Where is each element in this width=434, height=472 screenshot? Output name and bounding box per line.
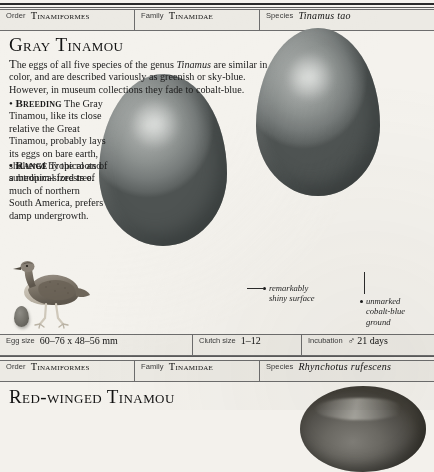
taxonomy-species-cell-2: Species Rhynchotus rufescens <box>260 361 434 381</box>
range-paragraph: • Range Tropical and subtropical forests… <box>9 159 105 222</box>
record-separator-rule <box>0 356 434 357</box>
range-bullet: • <box>9 159 13 171</box>
page-top-rule-hairline <box>0 7 434 8</box>
taxonomy-bar-red-winged-tinamou: Order Tinamiformes Family Tinamidae Spec… <box>0 360 434 382</box>
male-symbol-icon: ♂ <box>348 335 356 346</box>
species-label-2: Species <box>266 362 293 371</box>
clutch-size-cell: Clutch size 1–12 <box>193 335 302 355</box>
range-tag: Range <box>15 159 47 171</box>
egg-text-wrap-spacer-2 <box>109 97 271 167</box>
egg-size-cell: Egg size 60–76 x 48–56 mm <box>0 335 193 355</box>
measurement-bar-gray-tinamou: Egg size 60–76 x 48–56 mm Clutch size 1–… <box>0 334 434 356</box>
callout-shiny-leader-line <box>247 288 263 289</box>
species-label: Species <box>266 11 293 20</box>
taxonomy-bar-gray-tinamou: Order Tinamiformes Family Tinamidae Spec… <box>0 9 434 31</box>
clutch-size-value: 1–12 <box>241 335 261 346</box>
callout-ground-line1: unmarked <box>366 296 400 306</box>
taxonomy-family-cell-2: Family Tinamidae <box>135 361 260 381</box>
species-value: Tinamus tao <box>298 10 350 21</box>
egg-photo-back <box>256 28 380 196</box>
taxonomy-order-cell-2: Order Tinamiformes <box>0 361 135 381</box>
intro-lead-char: T <box>9 57 17 71</box>
order-label: Order <box>6 11 26 20</box>
intro-genus: Tinamus <box>176 59 211 70</box>
family-label: Family <box>141 11 164 20</box>
incubation-value: 21 days <box>357 335 388 346</box>
callout-ground-line2: cobalt-blue <box>366 306 405 316</box>
taxonomy-order-cell: Order Tinamiformes <box>0 10 135 30</box>
callout-ground-line3: ground <box>366 317 391 327</box>
clutch-size-label: Clutch size <box>199 336 236 345</box>
callout-cobalt-ground: unmarked cobalt-blue ground <box>360 296 405 327</box>
order-label-2: Order <box>6 362 26 371</box>
taxonomy-species-cell: Species Tinamus tao <box>260 10 434 30</box>
egg-red-winged-highlight <box>315 398 406 420</box>
family-value-2: Tinamidae <box>169 361 214 372</box>
intro-text: The eggs of all five species of the genu… <box>9 58 277 96</box>
page-top-rule <box>0 3 434 5</box>
egg-photo-red-winged <box>300 386 426 472</box>
intro-paragraph: The eggs of all five species of the genu… <box>9 58 277 96</box>
breeding-bullet: • <box>9 97 13 109</box>
incubation-cell: Incubation ♂ 21 days <box>302 335 434 355</box>
order-value-2: Tinamiformes <box>31 361 90 372</box>
callout-ground-marker <box>360 300 363 303</box>
incubation-label: Incubation <box>308 336 343 345</box>
egg-back-edge <box>256 28 380 196</box>
order-value: Tinamiformes <box>31 10 90 21</box>
species-headline-red-winged-tinamou: Red-winged Tinamou <box>9 386 175 408</box>
intro-part1: he eggs of all five species of the genus <box>17 59 177 70</box>
family-value: Tinamidae <box>169 10 214 21</box>
taxonomy-family-cell: Family Tinamidae <box>135 10 260 30</box>
range-section: • Range Tropical and subtropical forests… <box>9 159 105 222</box>
callout-shiny-line1: remarkably <box>269 283 308 293</box>
species-value-2: Rhynchotus rufescens <box>298 361 391 372</box>
egg-size-label: Egg size <box>6 336 35 345</box>
callout-shiny-marker <box>263 287 266 290</box>
callout-ground-leader-line <box>364 272 365 294</box>
scale-reference-egg <box>14 306 29 327</box>
callout-shiny-line2: shiny surface <box>269 293 315 303</box>
family-label-2: Family <box>141 362 164 371</box>
egg-size-value: 60–76 x 48–56 mm <box>40 335 118 346</box>
callout-shiny-surface: remarkably shiny surface <box>263 283 315 304</box>
breeding-tag: Breeding <box>15 97 61 109</box>
species-headline-gray-tinamou: Gray Tinamou <box>9 34 123 56</box>
